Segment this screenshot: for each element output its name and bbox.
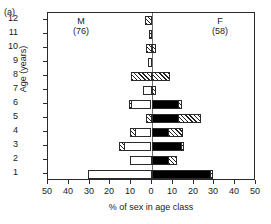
y-tick-label-7: 7 (0, 84, 18, 93)
bar-segment-hatch (152, 72, 170, 81)
bar-segment-hatch (210, 170, 213, 179)
bar-m-age-8 (131, 72, 152, 81)
bar-segment-hatch (168, 156, 177, 165)
x-tick-mark (109, 180, 110, 184)
y-tick-label-6: 6 (0, 98, 18, 107)
bar-segment-open (148, 58, 152, 67)
x-tick-mark (193, 180, 194, 184)
bar-m-age-11 (149, 30, 152, 39)
bar-segment-solid (152, 114, 179, 123)
bar-segment-solid (152, 100, 179, 109)
female-sample-size: (58) (200, 26, 240, 36)
x-tick-mark (68, 180, 69, 184)
x-tick-mark (89, 180, 90, 184)
x-tick-mark (213, 180, 214, 184)
female-label: F (217, 16, 223, 26)
y-tick-label-9: 9 (0, 56, 18, 65)
bar-segment-open (88, 170, 152, 179)
male-label: M (77, 16, 85, 26)
bar-f-age-1 (152, 170, 214, 179)
x-axis-title: % of sex in age class (47, 202, 255, 212)
plot-area: M (76) F (58) (47, 12, 255, 180)
x-tick-mark (172, 180, 173, 184)
bar-segment-open (135, 128, 151, 137)
bar-f-age-10 (152, 44, 156, 53)
bar-f-age-7 (152, 86, 156, 95)
bar-segment-open (130, 156, 152, 165)
x-tick-mark (47, 180, 48, 184)
bar-f-age-6 (152, 100, 183, 109)
bar-segment-open (143, 86, 152, 95)
y-tick-label-5: 5 (0, 112, 18, 121)
x-tick-mark (234, 180, 235, 184)
bar-segment-hatch (149, 30, 152, 39)
bar-segment-hatch (145, 16, 152, 25)
female-group-header: F (58) (200, 16, 240, 36)
y-tick-label-10: 10 (0, 42, 18, 51)
bar-f-age-3 (152, 142, 185, 151)
bar-segment-hatch (152, 86, 156, 95)
y-tick-label-2: 2 (0, 154, 18, 163)
x-tick-mark (255, 180, 256, 184)
x-tick-label: 50 (242, 186, 268, 196)
bar-segment-hatch (178, 100, 182, 109)
y-tick-label-3: 3 (0, 140, 18, 149)
y-tick-label-1: 1 (0, 168, 18, 177)
bar-m-age-9 (148, 58, 152, 67)
bar-segment-open (124, 142, 151, 151)
y-axis-title: Age (years) (18, 0, 28, 139)
bar-segment-hatch (131, 72, 152, 81)
bar-segment-hatch (178, 114, 201, 123)
bar-segment-hatch (168, 128, 184, 137)
y-tick-label-12: 12 (0, 14, 18, 23)
bar-m-age-7 (143, 86, 152, 95)
bar-m-age-4 (130, 128, 152, 137)
bar-f-age-8 (152, 72, 170, 81)
bar-segment-solid (152, 142, 182, 151)
bar-segment-solid (152, 170, 211, 179)
bar-f-age-2 (152, 156, 178, 165)
male-sample-size: (76) (61, 26, 101, 36)
bar-segment-hatch (181, 142, 184, 151)
bar-segment-hatch (152, 44, 156, 53)
y-tick-label-11: 11 (0, 28, 18, 37)
bar-f-age-4 (152, 128, 184, 137)
male-group-header: M (76) (61, 16, 101, 36)
bar-m-age-6 (129, 100, 152, 109)
y-tick-label-4: 4 (0, 126, 18, 135)
bar-m-age-12 (145, 16, 152, 25)
bar-segment-solid (152, 128, 169, 137)
bar-m-age-3 (119, 142, 152, 151)
bar-m-age-1 (88, 170, 152, 179)
y-tick-label-8: 8 (0, 70, 18, 79)
bar-f-age-5 (152, 114, 202, 123)
x-tick-mark (151, 180, 152, 184)
bar-segment-solid (152, 156, 169, 165)
bar-segment-open (131, 100, 151, 109)
bar-m-age-2 (130, 156, 152, 165)
figure-panel-a: (a) Age (years) 121110987654321 50403020… (0, 0, 271, 224)
x-tick-mark (130, 180, 131, 184)
